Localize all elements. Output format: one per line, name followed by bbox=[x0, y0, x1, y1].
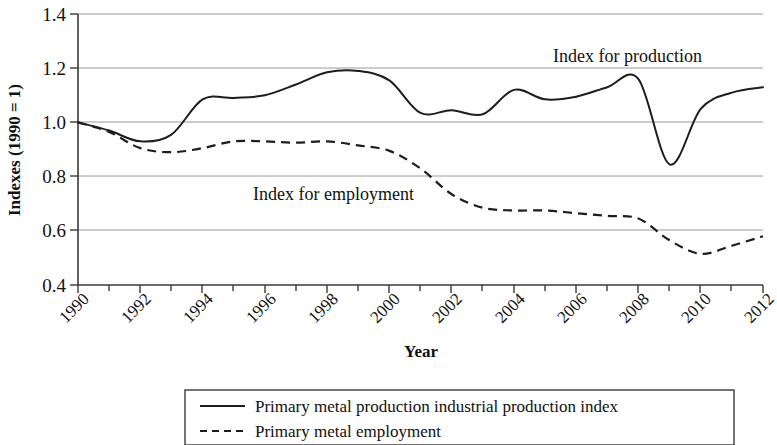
x-tick-label-2008: 2008 bbox=[615, 289, 652, 326]
annotation-index-for-employment: Index for employment bbox=[253, 184, 414, 204]
legend: Primary metal production industrial prod… bbox=[185, 390, 734, 445]
x-tick-label-1998: 1998 bbox=[304, 289, 341, 326]
x-tick-label-2012: 2012 bbox=[740, 289, 777, 326]
legend-label-production: Primary metal production industrial prod… bbox=[255, 397, 619, 416]
y-tick-label-1-4: 1.4 bbox=[42, 4, 66, 25]
x-axis-title: Year bbox=[404, 342, 438, 361]
chart-figure: 1.4 1.2 1.0 0.8 0.6 0.4 Indexes (1990 = … bbox=[0, 0, 777, 445]
legend-label-employment: Primary metal employment bbox=[255, 422, 441, 441]
annotation-index-for-production: Index for production bbox=[553, 46, 702, 66]
x-tick-label-2004: 2004 bbox=[491, 289, 529, 327]
y-tick-label-0-4: 0.4 bbox=[42, 275, 66, 296]
data-series bbox=[78, 70, 763, 254]
x-tick-label-1994: 1994 bbox=[179, 289, 217, 327]
x-tick-label-2002: 2002 bbox=[428, 289, 465, 326]
y-tick-label-1-2: 1.2 bbox=[42, 58, 66, 79]
x-tick-label-2000: 2000 bbox=[366, 289, 403, 326]
x-tick-label-2010: 2010 bbox=[677, 289, 714, 326]
x-tick-label-1992: 1992 bbox=[117, 289, 154, 326]
x-axis: 1990 1992 1994 1996 1998 2000 2002 2004 … bbox=[55, 285, 777, 361]
y-axis-title: Indexes (1990 = 1) bbox=[5, 84, 24, 216]
chart-svg: 1.4 1.2 1.0 0.8 0.6 0.4 Indexes (1990 = … bbox=[0, 0, 777, 445]
series-line-employment bbox=[78, 122, 763, 254]
y-axis: 1.4 1.2 1.0 0.8 0.6 0.4 Indexes (1990 = … bbox=[5, 4, 78, 296]
x-tick-label-1996: 1996 bbox=[242, 289, 279, 326]
y-tick-label-0-8: 0.8 bbox=[42, 166, 66, 187]
x-tick-label-2006: 2006 bbox=[553, 289, 590, 326]
y-tick-label-1-0: 1.0 bbox=[42, 112, 66, 133]
plot-annotations: Index for production Index for employmen… bbox=[253, 46, 702, 204]
y-tick-label-0-6: 0.6 bbox=[42, 220, 66, 241]
